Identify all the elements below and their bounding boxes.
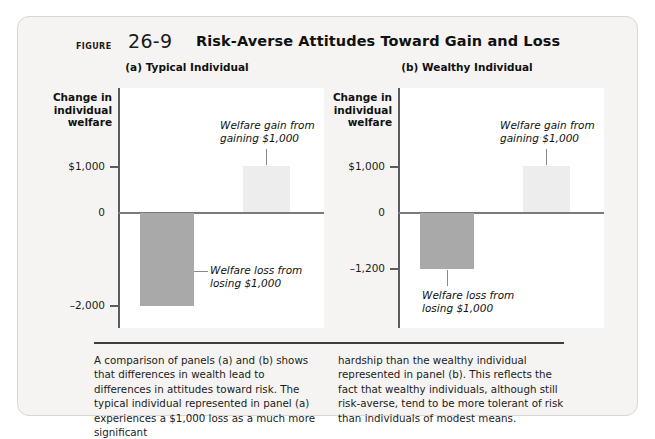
panel-a-tick-label-0: 0 xyxy=(42,206,105,218)
panel-a-loss-annotation-line1: Welfare loss from xyxy=(210,264,302,277)
figure-card: Figure 26-9 Risk-Averse Attitudes Toward… xyxy=(17,16,638,416)
panel-wealthy-individual: (b) Wealthy Individual Change in individ… xyxy=(322,61,612,333)
panel-b-gain-leader-line xyxy=(546,149,547,165)
panel-a-loss-bar xyxy=(140,213,194,306)
panel-a-loss-annotation: Welfare loss from losing $1,000 xyxy=(210,264,302,289)
panel-b-loss-annotation-line1: Welfare loss from xyxy=(422,289,514,302)
panel-a-y-axis xyxy=(118,88,120,328)
panel-a-axis-title-line3: welfare xyxy=(42,116,112,129)
panel-b-tick-label-1000: $1,000 xyxy=(322,160,385,172)
figure-title-bar: Figure 26-9 Risk-Averse Attitudes Toward… xyxy=(18,27,637,57)
panel-b-gain-annotation-line1: Welfare gain from xyxy=(500,119,595,132)
panel-a-gain-leader-line xyxy=(266,149,267,165)
panel-a-gain-annotation-line1: Welfare gain from xyxy=(220,119,315,132)
figure-label: Figure xyxy=(76,38,112,52)
panel-a-tick-label-neg2000: –2,000 xyxy=(42,299,105,311)
panel-a-heading: (a) Typical Individual xyxy=(42,61,332,73)
caption-column-left: A comparison of panels (a) and (b) shows… xyxy=(94,353,320,439)
panel-b-loss-annotation-line2: losing $1,000 xyxy=(422,302,514,315)
panel-a-gain-bar xyxy=(243,166,290,212)
panel-b-gain-bar xyxy=(523,166,570,212)
panel-b-axis-title-line1: Change in xyxy=(322,91,392,104)
panel-b-gain-annotation: Welfare gain from gaining $1,000 xyxy=(500,119,595,144)
panel-a-gain-annotation: Welfare gain from gaining $1,000 xyxy=(220,119,315,144)
panel-b-y-axis xyxy=(398,88,400,328)
figure-title: Risk-Averse Attitudes Toward Gain and Lo… xyxy=(196,33,560,49)
panel-typical-individual: (a) Typical Individual Change in individ… xyxy=(42,61,332,333)
panel-a-gain-annotation-line2: gaining $1,000 xyxy=(220,132,315,145)
panel-b-gain-annotation-line2: gaining $1,000 xyxy=(500,132,595,145)
panel-b-loss-leader-line xyxy=(447,270,448,286)
panel-b-axis-title-line3: welfare xyxy=(322,116,392,129)
panel-b-tick-label-0: 0 xyxy=(322,206,385,218)
panel-b-tick-1000 xyxy=(390,166,399,168)
panel-a-tick-1000 xyxy=(110,166,119,168)
panel-a-tick-label-1000: $1,000 xyxy=(42,160,105,172)
chart-area: (a) Typical Individual Change in individ… xyxy=(18,61,637,333)
panel-b-loss-annotation: Welfare loss from losing $1,000 xyxy=(422,289,514,314)
caption-divider xyxy=(94,342,564,344)
panel-a-axis-title: Change in individual welfare xyxy=(42,91,112,129)
panel-b-tick-neg1200 xyxy=(390,268,399,270)
caption-column-right: hardship than the wealthy individual rep… xyxy=(338,353,564,425)
panel-b-axis-title-line2: individual xyxy=(322,104,392,117)
panel-a-axis-title-line1: Change in xyxy=(42,91,112,104)
panel-a-tick-neg2000 xyxy=(110,305,119,307)
panel-a-loss-leader-line xyxy=(194,271,208,272)
panel-b-heading: (b) Wealthy Individual xyxy=(322,61,612,73)
panel-a-axis-title-line2: individual xyxy=(42,104,112,117)
panel-b-axis-title: Change in individual welfare xyxy=(322,91,392,129)
panel-b-loss-bar xyxy=(420,213,474,269)
figure-number: 26-9 xyxy=(128,30,172,52)
panel-b-tick-label-neg1200: –1,200 xyxy=(322,262,385,274)
panel-a-loss-annotation-line2: losing $1,000 xyxy=(210,277,302,290)
